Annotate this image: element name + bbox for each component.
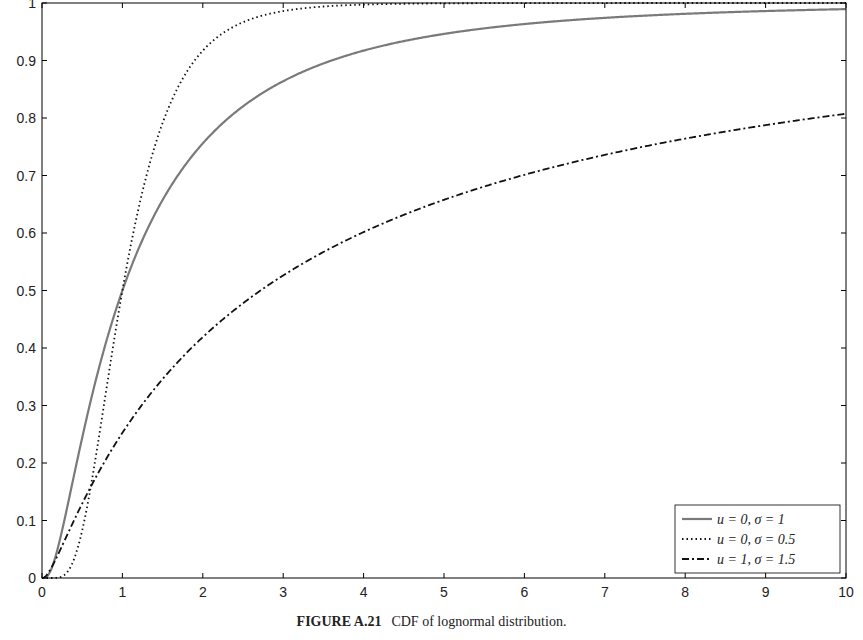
x-tick-label: 3: [279, 584, 287, 600]
y-tick-label: 0.3: [17, 398, 37, 414]
x-tick-label: 2: [199, 584, 207, 600]
x-tick-label: 7: [601, 584, 609, 600]
y-tick-label: 1: [28, 0, 36, 11]
plot-curves: [42, 3, 846, 578]
x-tick-label: 6: [521, 584, 529, 600]
y-tick-label: 0.5: [17, 283, 37, 299]
y-tick-label: 0.4: [17, 340, 37, 356]
x-tick-label: 0: [38, 584, 46, 600]
y-tick-label: 0: [28, 570, 36, 586]
x-tick-label: 4: [360, 584, 368, 600]
x-tick-label: 1: [119, 584, 127, 600]
y-tick-label: 0.2: [17, 455, 37, 471]
y-axis-ticks: 00.10.20.30.40.50.60.70.80.91: [17, 0, 846, 586]
y-tick-label: 0.9: [17, 53, 37, 69]
plot-frame: [42, 3, 846, 578]
legend: u = 0, σ = 1 u = 0, σ = 0.5 u = 1, σ = 1…: [675, 505, 840, 573]
y-tick-label: 0.6: [17, 225, 37, 241]
curve-solid: [42, 9, 846, 578]
y-tick-label: 0.1: [17, 513, 37, 529]
figure-label: FIGURE A.21: [297, 614, 382, 629]
x-tick-label: 10: [838, 584, 854, 600]
curve-dotted: [42, 3, 846, 578]
legend-label-dotted: u = 0, σ = 0.5: [717, 532, 795, 547]
lognormal-cdf-chart: 00.10.20.30.40.50.60.70.80.91 0123456789…: [0, 0, 863, 612]
y-tick-label: 0.8: [17, 110, 37, 126]
x-tick-label: 8: [681, 584, 689, 600]
x-tick-label: 5: [440, 584, 448, 600]
figure-caption: FIGURE A.21CDF of lognormal distribution…: [0, 614, 863, 630]
y-tick-label: 0.7: [17, 168, 37, 184]
x-tick-label: 9: [762, 584, 770, 600]
legend-label-solid: u = 0, σ = 1: [717, 512, 785, 527]
legend-label-dashdot: u = 1, σ = 1.5: [717, 552, 795, 567]
figure-caption-text: CDF of lognormal distribution.: [391, 614, 566, 629]
